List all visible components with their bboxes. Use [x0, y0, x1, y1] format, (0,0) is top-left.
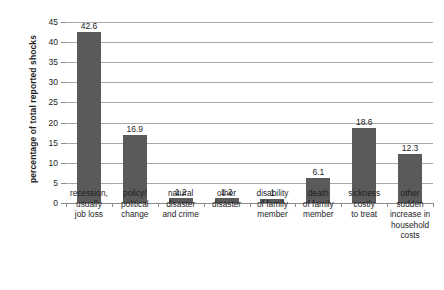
bar-value-label: 6.1 — [312, 167, 324, 177]
bar-chart: percentage of total reported shocks 0510… — [0, 0, 444, 290]
x-axis-label: recession,usuallyjob loss — [66, 188, 112, 220]
y-tick-mark — [61, 82, 66, 83]
y-tick-label: 10 — [49, 158, 58, 168]
y-tick-mark — [61, 22, 66, 23]
gridline — [66, 82, 433, 83]
x-axis-label-line: other — [204, 188, 250, 199]
x-axis-label-line: sickness — [341, 188, 387, 199]
x-axis-label-line: disaster — [158, 199, 204, 210]
gridline — [66, 123, 433, 124]
x-axis-label-line: political — [112, 199, 158, 210]
y-tick-mark — [61, 143, 66, 144]
x-axis-label-line: recession, — [66, 188, 112, 199]
x-axis-label: deathof familymember — [295, 188, 341, 220]
x-axis-label: othersuddenincrease inhouseholdcosts — [387, 188, 433, 241]
x-axis-label: disabilityof familymember — [250, 188, 296, 220]
gridline — [66, 183, 433, 184]
x-axis-label-line: costs — [387, 230, 433, 241]
bar[interactable]: 42.6 — [77, 32, 101, 203]
bar-value-label: 12.3 — [402, 143, 419, 153]
x-axis-label-line: and crime — [158, 209, 204, 220]
gridline — [66, 42, 433, 43]
x-axis-label: sicknesscostlyto treat — [341, 188, 387, 220]
plot-area: 051015202530354045 42.616.91.21.216.118.… — [66, 22, 433, 203]
gridline — [66, 143, 433, 144]
x-axis-label-line: increase in — [387, 209, 433, 220]
x-axis-label-line: member — [295, 209, 341, 220]
y-tick-label: 30 — [49, 77, 58, 87]
bar-value-label: 42.6 — [81, 21, 98, 31]
y-tick-mark — [61, 102, 66, 103]
x-axis-label-line: change — [112, 209, 158, 220]
x-axis-label: policy/politicalchange — [112, 188, 158, 220]
x-axis-label-line: job loss — [66, 209, 112, 220]
y-tick-label: 5 — [53, 178, 58, 188]
bar-value-label: 16.9 — [127, 124, 144, 134]
x-axis-label-line: usually — [66, 199, 112, 210]
x-axis-label: naturaldisasterand crime — [158, 188, 204, 220]
x-axis-label-line: of family — [295, 199, 341, 210]
x-axis-label-line: death — [295, 188, 341, 199]
x-axis-label-line: to treat — [341, 209, 387, 220]
y-tick-label: 0 — [53, 198, 58, 208]
gridline — [66, 62, 433, 63]
x-tick-mark — [433, 203, 434, 207]
y-tick-mark — [61, 62, 66, 63]
x-axis-label-line: household — [387, 220, 433, 231]
x-axis-label: otherdisaster — [204, 188, 250, 209]
x-axis-label-line: policy/ — [112, 188, 158, 199]
gridline — [66, 22, 433, 23]
y-tick-label: 35 — [49, 57, 58, 67]
y-tick-label: 45 — [49, 17, 58, 27]
y-tick-label: 20 — [49, 118, 58, 128]
y-tick-mark — [61, 42, 66, 43]
x-axis-label-line: member — [250, 209, 296, 220]
y-tick-label: 15 — [49, 138, 58, 148]
x-axis-label-line: other — [387, 188, 433, 199]
x-axis-label-line: disaster — [204, 199, 250, 210]
x-axis-label-line: sudden — [387, 199, 433, 210]
y-tick-mark — [61, 183, 66, 184]
x-axis-label-line: disability — [250, 188, 296, 199]
x-axis-label-line: of family — [250, 199, 296, 210]
x-axis-label-line: costly — [341, 199, 387, 210]
x-axis-label-line: natural — [158, 188, 204, 199]
gridline — [66, 102, 433, 103]
y-tick-label: 40 — [49, 37, 58, 47]
gridline — [66, 163, 433, 164]
y-tick-mark — [61, 163, 66, 164]
y-tick-label: 25 — [49, 97, 58, 107]
y-axis-title: percentage of total reported shocks — [28, 14, 38, 204]
bar-value-label: 18.6 — [356, 117, 373, 127]
y-tick-mark — [61, 123, 66, 124]
